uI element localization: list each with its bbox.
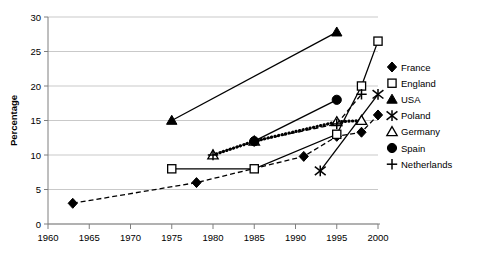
- legend-label-france: France: [401, 62, 431, 73]
- datapoint-france-1991: [299, 151, 308, 161]
- legend-label-netherlands: Netherlands: [401, 159, 452, 170]
- legend-item-spain[interactable]: Spain: [387, 143, 425, 154]
- legend-item-poland[interactable]: Poland: [387, 110, 431, 121]
- datapoint-usa-1975: [167, 115, 177, 124]
- datapoint-poland-2000: [373, 89, 384, 100]
- legend-item-england[interactable]: England: [388, 78, 436, 89]
- datapoint-spain-1995: [332, 95, 341, 104]
- legend-label-spain: Spain: [401, 143, 425, 154]
- datapoint-england-1995: [333, 130, 341, 138]
- legend-item-netherlands[interactable]: Netherlands: [387, 159, 453, 170]
- xtick-label-1965: 1965: [79, 232, 100, 243]
- legend-item-france[interactable]: France: [387, 62, 430, 73]
- ytick-label-5: 5: [36, 184, 41, 195]
- datapoint-england-1998: [357, 82, 365, 90]
- series-germany: [208, 115, 367, 159]
- legend-marker-spain: [387, 143, 396, 152]
- ytick-label-25: 25: [30, 46, 41, 57]
- xtick-label-1995: 1995: [326, 232, 347, 243]
- series-group: [68, 27, 383, 208]
- datapoint-germany-1998: [356, 115, 366, 124]
- series-poland: [315, 89, 384, 176]
- ytick-label-20: 20: [30, 81, 41, 92]
- legend-marker-germany: [387, 127, 397, 136]
- y-axis-title: Percentage: [8, 95, 19, 146]
- legend-label-england: England: [401, 78, 436, 89]
- datapoint-france-1963: [68, 198, 77, 208]
- datapoint-england-2000: [374, 37, 382, 45]
- xtick-label-1970: 1970: [120, 232, 141, 243]
- legend: FranceEnglandUSAPolandGermanySpainNether…: [387, 62, 453, 170]
- legend-marker-netherlands: [387, 159, 397, 169]
- legend-item-usa[interactable]: USA: [387, 94, 421, 105]
- line-chart: 0510152025301960196519701975198019851990…: [0, 0, 483, 272]
- legend-item-germany[interactable]: Germany: [387, 126, 441, 137]
- legend-label-germany: Germany: [401, 126, 440, 137]
- legend-marker-poland: [387, 110, 398, 121]
- ytick-label-10: 10: [30, 150, 41, 161]
- datapoint-england-1985: [250, 165, 258, 173]
- series-line-france: [73, 115, 378, 203]
- xtick-label-1990: 1990: [285, 232, 306, 243]
- chart-container: 0510152025301960196519701975198019851990…: [0, 0, 483, 272]
- series-line-england: [172, 41, 378, 169]
- ytick-label-30: 30: [30, 12, 41, 23]
- datapoint-poland-1993: [315, 165, 326, 176]
- legend-label-usa: USA: [401, 94, 421, 105]
- ytick-label-15: 15: [30, 115, 41, 126]
- xtick-label-1960: 1960: [37, 232, 58, 243]
- xtick-label-1980: 1980: [202, 232, 223, 243]
- legend-label-poland: Poland: [401, 110, 431, 121]
- xtick-label-1985: 1985: [244, 232, 265, 243]
- datapoint-france-1978: [192, 178, 201, 188]
- xtick-label-2000: 2000: [367, 232, 388, 243]
- series-line-poland: [320, 94, 378, 171]
- datapoint-usa-1995: [332, 27, 342, 36]
- datapoint-france-2000: [373, 110, 382, 120]
- legend-marker-england: [388, 79, 396, 87]
- legend-marker-france: [387, 62, 396, 72]
- legend-marker-usa: [387, 94, 397, 103]
- gridlines: 051015202530: [30, 12, 378, 230]
- datapoint-england-1975: [168, 165, 176, 173]
- series-line-usa: [172, 32, 337, 120]
- ytick-label-0: 0: [36, 219, 41, 230]
- xtick-label-1975: 1975: [161, 232, 182, 243]
